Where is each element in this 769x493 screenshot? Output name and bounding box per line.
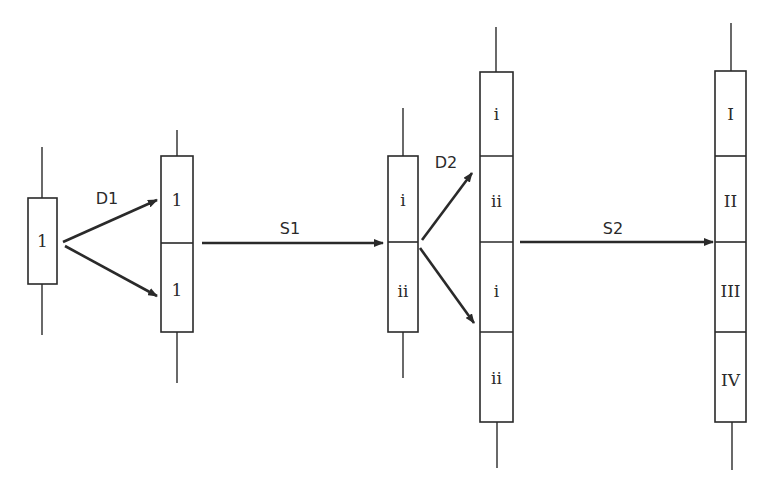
stage-4: i ii i ii <box>480 27 513 468</box>
segment-label: ii <box>398 281 409 301</box>
segment-box <box>388 156 418 332</box>
segment-label: ii <box>491 191 502 211</box>
stage-1: 1 <box>28 147 57 335</box>
segment-label: 1 <box>172 190 183 210</box>
segment-label: ii <box>491 368 502 388</box>
segment-label: I <box>727 104 734 124</box>
step-s2: S2 <box>520 219 713 242</box>
step-d2: D2 <box>420 153 474 323</box>
step-label-d2: D2 <box>435 153 458 172</box>
step-d1: D1 <box>63 189 157 296</box>
arrow-up-icon <box>422 173 472 240</box>
segment-label: i <box>400 190 406 210</box>
segment-label: i <box>494 104 500 124</box>
step-label-s2: S2 <box>603 219 623 238</box>
step-label-d1: D1 <box>96 189 119 208</box>
stage-2: 1 1 <box>161 130 193 383</box>
stage-3: i ii <box>388 108 418 378</box>
segment-label: 1 <box>172 280 183 300</box>
segment-label: IV <box>721 370 741 390</box>
segment-label: i <box>494 281 500 301</box>
step-s1: S1 <box>202 219 383 243</box>
segment-box <box>161 156 193 332</box>
segment-label: 1 <box>37 231 48 251</box>
step-label-s1: S1 <box>280 219 300 238</box>
arrow-down-icon <box>420 248 474 323</box>
stage-5: I II III IV <box>715 23 746 470</box>
segment-label: III <box>720 281 740 301</box>
arrow-down-icon <box>65 246 157 296</box>
segment-label: II <box>724 191 737 211</box>
diagram-canvas: 1 D1 1 1 S1 i ii D2 <box>0 0 769 493</box>
